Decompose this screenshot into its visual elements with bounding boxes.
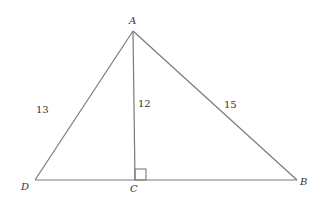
length-label-ac: 12 [138, 98, 151, 109]
segment-ac-altitude [133, 31, 135, 180]
triangle-diagram: A D C B 13 12 15 [0, 0, 329, 209]
length-label-ab: 15 [224, 99, 237, 110]
vertex-label-b: B [299, 176, 307, 187]
segment-ad [35, 31, 133, 180]
vertex-label-a: A [128, 15, 136, 26]
vertex-label-d: D [20, 181, 29, 192]
segment-ab [133, 31, 297, 180]
vertex-label-c: C [130, 183, 138, 194]
length-label-ad: 13 [36, 104, 49, 115]
right-angle-marker [135, 169, 146, 180]
